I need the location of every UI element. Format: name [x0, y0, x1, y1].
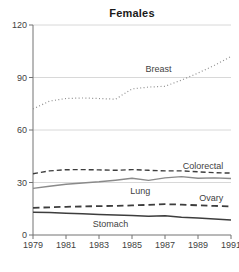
y-tick-label-60: 60: [17, 125, 27, 135]
series-line-ovary: [33, 204, 231, 208]
series-label-breast: Breast: [145, 64, 172, 74]
series-label-ovary: Ovary: [199, 193, 224, 203]
series-line-stomach: [33, 212, 231, 220]
series-label-lung: Lung: [130, 186, 150, 196]
y-tick-label-0: 0: [22, 230, 27, 240]
y-tick-label-90: 90: [17, 73, 27, 83]
line-chart: 03060901201979198119831985198719891991Br…: [0, 0, 239, 272]
y-tick-label-30: 30: [17, 178, 27, 188]
x-tick-label-1989: 1989: [188, 240, 208, 250]
x-tick-label-1983: 1983: [89, 240, 109, 250]
series-label-stomach: Stomach: [93, 219, 129, 229]
x-tick-label-1981: 1981: [56, 240, 76, 250]
series-line-breast: [33, 57, 231, 110]
x-tick-label-1985: 1985: [122, 240, 142, 250]
x-tick-label-1979: 1979: [23, 240, 43, 250]
y-tick-label-120: 120: [12, 20, 27, 30]
series-label-colorectal: Colorectal: [183, 161, 224, 171]
x-tick-label-1987: 1987: [155, 240, 175, 250]
chart-panel: Females 03060901201979198119831985198719…: [0, 0, 239, 272]
x-tick-label-1991: 1991: [221, 240, 239, 250]
